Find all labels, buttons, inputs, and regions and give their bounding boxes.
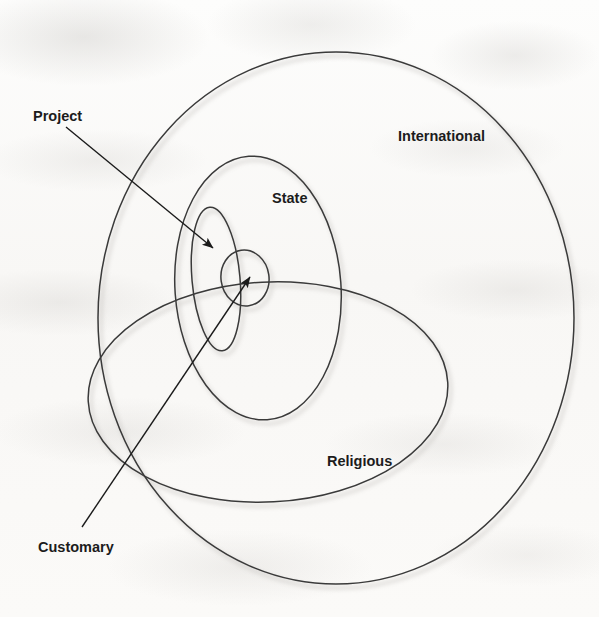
set-outlines xyxy=(82,52,574,584)
venn-diagram: International State Religious Project Cu… xyxy=(0,0,599,617)
figure-canvas: International State Religious Project Cu… xyxy=(0,0,599,617)
project-leader-line xyxy=(66,127,213,248)
label-international: International xyxy=(398,128,485,144)
leader-lines xyxy=(66,127,250,527)
international-set[interactable] xyxy=(98,52,574,584)
religious-shadow xyxy=(85,277,456,516)
label-project: Project xyxy=(33,108,82,124)
label-state: State xyxy=(272,190,307,206)
label-customary: Customary xyxy=(38,539,114,555)
label-religious: Religious xyxy=(327,453,392,469)
